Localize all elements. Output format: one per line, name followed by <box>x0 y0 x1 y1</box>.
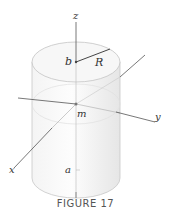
y-axis-front <box>116 112 155 122</box>
x-axis-back <box>120 55 145 77</box>
figure-caption: FIGURE 17 <box>0 198 171 209</box>
cylinder-diagram: z b R m y x a <box>0 0 171 216</box>
x-axis-label: x <box>9 164 15 175</box>
z-axis-label: z <box>72 10 79 21</box>
y-axis-label: y <box>154 111 161 122</box>
mass-point <box>75 103 78 106</box>
m-label: m <box>77 108 86 119</box>
top-center-point <box>75 61 77 63</box>
b-label: b <box>65 55 72 68</box>
R-label: R <box>94 56 103 69</box>
a-label: a <box>65 164 71 175</box>
